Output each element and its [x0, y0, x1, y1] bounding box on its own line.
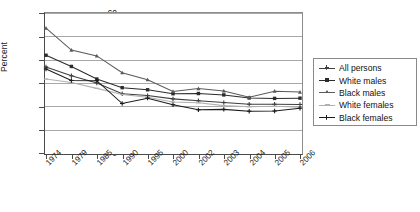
legend: All persons White males Black males Whit… [313, 58, 417, 126]
legend-label: White females [339, 100, 393, 110]
legend-label: All persons [339, 63, 382, 73]
series-marker [146, 88, 149, 91]
legend-label: White males [339, 76, 386, 86]
legend-marker-icon [319, 63, 335, 73]
legend-marker-icon [319, 76, 335, 86]
series-marker [70, 65, 73, 68]
series-marker [273, 97, 276, 100]
legend-marker-icon [319, 88, 335, 98]
series-marker [44, 26, 48, 30]
legend-item: All persons [319, 62, 413, 74]
plot-area [44, 12, 303, 155]
legend-item: White males [319, 74, 413, 86]
series-marker [44, 54, 47, 57]
legend-item: Black females [319, 112, 413, 124]
legend-marker-icon [319, 113, 335, 123]
series-marker [121, 86, 124, 89]
series-layer [45, 13, 301, 153]
y-axis-label: Percent [0, 27, 9, 87]
legend-label: Black females [339, 113, 393, 123]
legend-marker-icon [319, 100, 335, 110]
series-line [46, 28, 300, 97]
series-marker [197, 92, 200, 95]
legend-item: White females [319, 99, 413, 111]
legend-item: Black males [319, 87, 413, 99]
series-marker [298, 96, 301, 99]
line-chart: Percent 6050403020100 197419791985199019… [0, 0, 420, 212]
series-marker [222, 93, 225, 96]
legend-label: Black males [339, 88, 385, 98]
